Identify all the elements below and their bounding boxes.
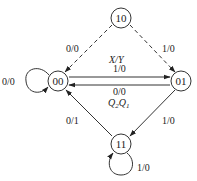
- edge-01-to-11: 1/0: [130, 90, 175, 136]
- edge-label-10-00: 0/0: [66, 43, 79, 54]
- edge-10-to-00: 0/0: [65, 25, 112, 72]
- edge-label-00-00: 0/0: [2, 76, 15, 87]
- edge-11-to-00: 0/1: [66, 90, 112, 136]
- state-label-01: 01: [176, 75, 187, 87]
- self-loop-00: 0/0: [2, 69, 49, 93]
- edge-label-01-00: 0/0: [113, 86, 126, 97]
- state-format-legend: Q2Q1: [108, 97, 129, 110]
- edge-00-to-01: 1/0: [69, 63, 170, 77]
- state-11: 11: [111, 134, 131, 154]
- state-label-11: 11: [116, 138, 127, 150]
- state-label-00: 00: [53, 75, 65, 87]
- edge-label-10-01: 1/0: [162, 43, 175, 54]
- state-00: 00: [48, 71, 68, 91]
- state-label-10: 10: [116, 12, 128, 24]
- state-01: 01: [171, 71, 191, 91]
- edge-01-to-00: 0/0: [69, 85, 170, 97]
- self-loop-11: 1/0: [109, 153, 150, 175]
- edge-label-11-00: 0/1: [66, 115, 79, 126]
- state-10: 10: [111, 8, 131, 28]
- edge-10-to-01: 1/0: [130, 25, 175, 72]
- state-diagram: 0/0 1/0 1/0 0/0 1/0 0/1 0/0 1/0 X/Y Q2Q1: [0, 0, 197, 181]
- edge-label-01-11: 1/0: [162, 115, 175, 126]
- edge-format-legend: X/Y: [108, 54, 125, 65]
- edge-label-11-11: 1/0: [137, 162, 150, 173]
